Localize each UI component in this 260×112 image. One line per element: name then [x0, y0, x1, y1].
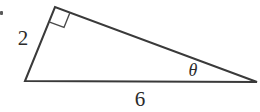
edge-artifact-mark: [0, 11, 3, 15]
triangle-figure: 2 6 θ: [0, 0, 260, 112]
triangle-outline: [25, 7, 257, 82]
angle-label-theta: θ: [189, 61, 198, 79]
triangle-drawing: [0, 0, 260, 112]
side-length-label-2: 2: [18, 28, 29, 49]
side-length-label-6: 6: [135, 89, 146, 110]
